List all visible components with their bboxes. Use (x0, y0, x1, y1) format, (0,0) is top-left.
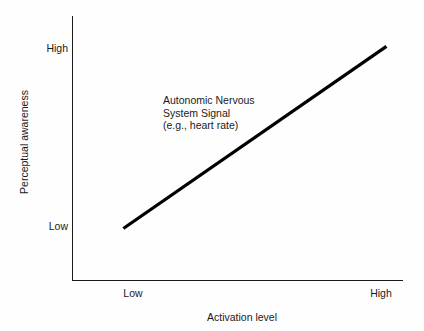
chart-figure: High Low Low High Perceptual awareness A… (0, 0, 424, 331)
annotation-line-2: System Signal (163, 107, 255, 120)
x-axis-title: Activation level (172, 311, 312, 323)
y-axis-title: Perceptual awareness (18, 72, 30, 212)
annotation-line-3: (e.g., heart rate) (163, 119, 255, 132)
x-axis-tick-low: Low (104, 287, 162, 299)
y-axis-tick-low: Low (0, 220, 68, 232)
x-axis-tick-high: High (352, 287, 410, 299)
series-annotation: Autonomic Nervous System Signal (e.g., h… (163, 94, 255, 132)
trend-line-autonomic-nervous-system-signal (123, 46, 386, 228)
y-axis-tick-high: High (0, 42, 68, 54)
annotation-line-1: Autonomic Nervous (163, 94, 255, 107)
